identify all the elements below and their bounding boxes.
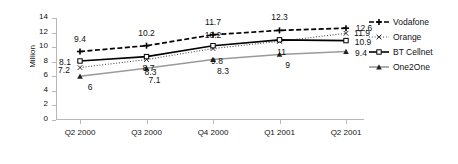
legend-label: Vodafone bbox=[393, 17, 429, 27]
data-label: 11.7 bbox=[205, 17, 221, 27]
plus-marker bbox=[77, 49, 83, 55]
data-label: 10.2 bbox=[205, 30, 222, 40]
y-axis-label: Million bbox=[28, 27, 37, 87]
square-marker bbox=[344, 38, 348, 42]
legend-marker-icon bbox=[368, 61, 390, 73]
data-label: 9 bbox=[285, 60, 290, 70]
legend-item-orange[interactable]: Orange bbox=[368, 29, 458, 44]
legend-item-vodafone[interactable]: Vodafone bbox=[368, 14, 458, 29]
legend-item-bt-cellnet[interactable]: BT Cellnet bbox=[368, 44, 458, 59]
y-tick-label: 8 bbox=[44, 56, 48, 65]
plus-marker bbox=[144, 43, 150, 49]
square-marker bbox=[78, 59, 82, 63]
data-label: 9.4 bbox=[355, 48, 367, 58]
line-chart: Million 02468101214 Q2 2000Q3 2000Q4 200… bbox=[0, 0, 458, 164]
data-label: 8.1 bbox=[59, 57, 71, 67]
legend-marker-icon bbox=[368, 16, 390, 28]
square-marker bbox=[377, 49, 381, 53]
legend-marker-icon bbox=[368, 46, 390, 58]
plot-area: 02468101214 Q2 2000Q3 2000Q4 2000Q1 2001… bbox=[56, 18, 364, 120]
y-tick-label: 0 bbox=[44, 114, 48, 123]
square-marker bbox=[211, 43, 215, 47]
square-marker bbox=[277, 38, 281, 42]
y-tick-label: 12 bbox=[39, 27, 48, 36]
plus-marker bbox=[376, 19, 382, 25]
data-label: 10.2 bbox=[138, 28, 155, 38]
legend: VodafoneOrangeBT CellnetOne2One bbox=[368, 14, 458, 74]
x-tick-label: Q1 2001 bbox=[264, 128, 295, 137]
x-tick-label: Q3 2000 bbox=[131, 128, 162, 137]
plus-marker bbox=[277, 27, 283, 33]
y-tick-label: 6 bbox=[44, 70, 48, 79]
y-tick-mark bbox=[52, 120, 56, 121]
legend-marker-icon bbox=[368, 31, 390, 43]
square-marker bbox=[144, 54, 148, 58]
data-label: 9.4 bbox=[74, 34, 86, 44]
data-label: 8.3 bbox=[217, 66, 229, 76]
legend-label: BT Cellnet bbox=[393, 47, 433, 57]
data-label: 11 bbox=[277, 47, 286, 57]
x-tick-label: Q2 2001 bbox=[331, 128, 362, 137]
y-tick-label: 14 bbox=[39, 12, 48, 21]
x-tick-label: Q2 2000 bbox=[65, 128, 96, 137]
legend-item-one2one[interactable]: One2One bbox=[368, 59, 458, 74]
legend-label: Orange bbox=[393, 32, 421, 42]
x-marker bbox=[78, 65, 83, 70]
data-label: 8.7 bbox=[143, 63, 155, 73]
data-label: 6 bbox=[88, 82, 93, 92]
legend-label: One2One bbox=[393, 62, 430, 72]
y-tick-label: 10 bbox=[39, 41, 48, 50]
data-label: 9.8 bbox=[211, 56, 223, 66]
plus-marker bbox=[343, 25, 349, 31]
y-tick-label: 4 bbox=[44, 85, 48, 94]
y-tick-label: 2 bbox=[44, 99, 48, 108]
data-label: 12.3 bbox=[271, 12, 288, 22]
x-tick-label: Q4 2000 bbox=[198, 128, 229, 137]
data-label: 7.1 bbox=[149, 75, 161, 85]
